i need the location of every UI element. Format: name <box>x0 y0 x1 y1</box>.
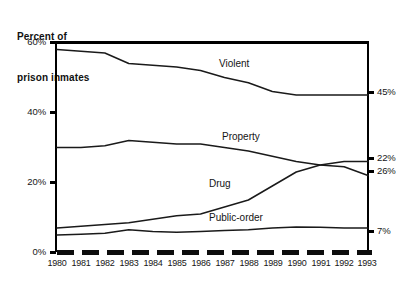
series-lines <box>57 50 368 236</box>
end-label-public-order: 7% <box>377 225 391 236</box>
y-tick-label-60: 60% <box>12 36 46 47</box>
y-tick-label-20: 20% <box>12 176 46 187</box>
end-label-drug: 22% <box>377 152 396 163</box>
chart-figure: Percent of prison inmates <box>0 0 401 290</box>
series-label-drug: Drug <box>209 178 231 189</box>
year-label-1993: 1993 <box>349 258 385 268</box>
series-line-public-order <box>57 227 368 235</box>
end-label-violent: 45% <box>377 86 396 97</box>
series-label-violent: Violent <box>219 58 249 69</box>
series-label-property: Property <box>222 131 260 142</box>
series-line-violent <box>57 50 368 96</box>
y-tick-label-40: 40% <box>12 106 46 117</box>
end-label-property: 26% <box>377 165 396 176</box>
series-line-property <box>57 141 368 176</box>
series-label-public-order: Public-order <box>209 212 263 223</box>
plot-area <box>0 0 401 290</box>
y-tick-label-0: 0% <box>12 246 46 257</box>
